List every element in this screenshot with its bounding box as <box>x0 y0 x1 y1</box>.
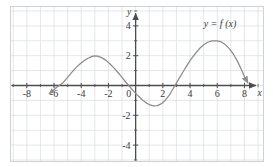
y-axis-tick-label: 2 <box>126 50 131 61</box>
y-axis-label: y <box>126 7 132 17</box>
y-axis-tick-label: -4 <box>122 140 130 151</box>
x-axis-label: x <box>256 88 262 98</box>
x-axis-tick-label: -2 <box>104 88 112 99</box>
coordinate-plane: -8-6-4-202468-4-224xyy = f (x) <box>0 0 273 167</box>
x-axis-tick-label: -8 <box>23 88 31 99</box>
plot-background <box>11 7 264 162</box>
function-label: y = f (x) <box>203 18 237 30</box>
x-axis-tick-label: 4 <box>188 88 193 99</box>
x-axis-tick-label: -4 <box>77 88 85 99</box>
x-axis-tick-label: 6 <box>215 88 220 99</box>
graph-figure: -8-6-4-202468-4-224xyy = f (x) <box>0 0 273 167</box>
y-axis-tick-label: 4 <box>126 20 131 31</box>
y-axis-tick-label: -2 <box>122 110 130 121</box>
x-axis-tick-label: 0 <box>126 88 131 99</box>
x-axis-tick-label: 8 <box>242 88 247 99</box>
x-axis-tick-label: 2 <box>160 88 165 99</box>
